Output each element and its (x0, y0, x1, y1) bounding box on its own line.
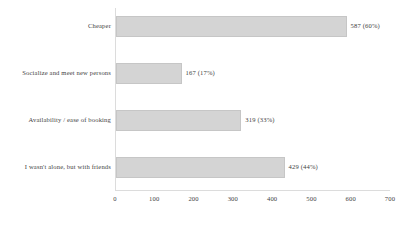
bar-row: Availability / ease of booking 319 (33%) (0, 109, 403, 131)
bar-row: Cheaper 587 (60%) (0, 15, 403, 37)
category-label: I wasn't alone, but with friends (0, 164, 111, 171)
bar-value-label: 319 (33%) (245, 117, 274, 124)
category-label: Cheaper (0, 23, 111, 30)
category-label: Availability / ease of booking (0, 117, 111, 124)
x-tick-label: 500 (291, 196, 331, 203)
bar (116, 110, 241, 131)
bar-value-label: 587 (60%) (351, 23, 380, 30)
category-label: Socialize and meet new persons (0, 70, 111, 77)
x-tick-label: 400 (252, 196, 292, 203)
bar (116, 63, 182, 84)
x-tick-label: 100 (134, 196, 174, 203)
bar-row: Socialize and meet new persons 167 (17%) (0, 62, 403, 84)
bar-chart: Cheaper 587 (60%) Socialize and meet new… (0, 0, 403, 230)
bar (116, 16, 347, 37)
x-axis-line (115, 190, 390, 191)
x-tick-label: 600 (331, 196, 371, 203)
x-tick-label: 0 (95, 196, 135, 203)
x-tick-label: 300 (213, 196, 253, 203)
bar-row: I wasn't alone, but with friends 429 (44… (0, 156, 403, 178)
x-tick-label: 700 (370, 196, 403, 203)
bar-value-label: 429 (44%) (289, 164, 318, 171)
bar-value-label: 167 (17%) (186, 70, 215, 77)
bar (116, 157, 285, 178)
plot-area: Cheaper 587 (60%) Socialize and meet new… (0, 0, 403, 230)
x-tick-label: 200 (174, 196, 214, 203)
